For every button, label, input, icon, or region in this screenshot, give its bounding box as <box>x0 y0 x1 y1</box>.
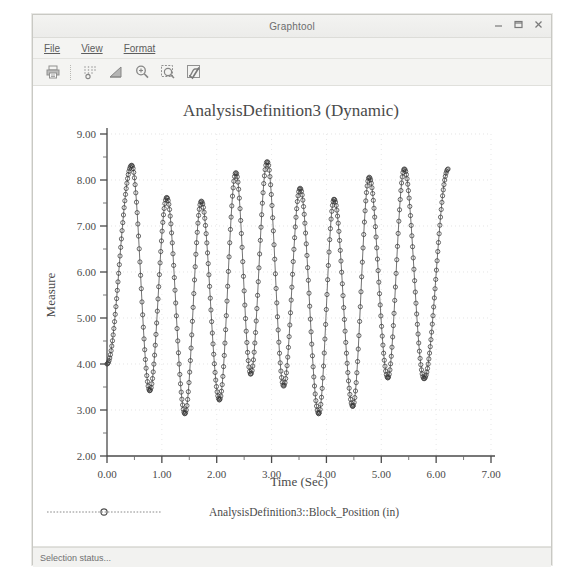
x-tick-label: 5.00 <box>372 468 392 480</box>
zoom-in-icon[interactable] <box>130 61 153 83</box>
menu-item-view[interactable]: View <box>79 42 105 55</box>
chart-plot: AnalysisDefinition3 (Dynamic) 2.003.004.… <box>33 86 549 546</box>
chart-style-icon[interactable] <box>104 61 127 83</box>
menu-format-label: Format <box>124 43 156 54</box>
grid-points-icon[interactable] <box>78 61 101 83</box>
toolbar-separator <box>70 65 72 80</box>
window-controls <box>492 18 545 31</box>
x-tick-label: 0.00 <box>97 468 117 480</box>
y-tick-label: 7.00 <box>77 220 97 232</box>
y-tick-label: 8.00 <box>77 174 97 186</box>
y-tick-label: 6.00 <box>77 266 97 278</box>
y-tick-label: 9.00 <box>77 128 97 140</box>
close-button[interactable] <box>532 18 545 31</box>
maximize-button[interactable] <box>512 18 525 31</box>
graphtool-window: Graphtool File View Format <box>32 14 552 565</box>
title-bar: Graphtool <box>33 15 551 38</box>
menu-item-file[interactable]: File <box>42 42 62 55</box>
menu-file-label: File <box>44 43 60 54</box>
status-bar: Selection status... <box>33 547 551 567</box>
chart-title: AnalysisDefinition3 (Dynamic) <box>183 101 399 120</box>
y-axis-label: Measure <box>43 272 58 317</box>
curve-fit-icon[interactable] <box>182 61 205 83</box>
menu-item-format[interactable]: Format <box>122 42 158 55</box>
print-icon[interactable] <box>41 61 64 83</box>
y-tick-label: 4.00 <box>77 358 97 370</box>
window-title: Graphtool <box>33 21 551 32</box>
x-tick-label: 7.00 <box>481 468 501 480</box>
minimize-button[interactable] <box>492 18 505 31</box>
legend-label: AnalysisDefinition3::Block_Position (in) <box>209 506 399 519</box>
x-tick-label: 2.00 <box>207 468 227 480</box>
menu-view-label: View <box>81 43 103 54</box>
x-tick-label: 1.00 <box>152 468 172 480</box>
y-tick-label: 5.00 <box>77 312 97 324</box>
y-tick-label: 3.00 <box>77 404 97 416</box>
status-text: Selection status... <box>40 553 111 563</box>
zoom-area-icon[interactable] <box>156 61 179 83</box>
menu-bar: File View Format <box>33 38 551 59</box>
chart-canvas[interactable]: AnalysisDefinition3 (Dynamic) 2.003.004.… <box>33 86 551 547</box>
toolbar <box>33 59 551 86</box>
y-tick-label: 2.00 <box>77 450 97 462</box>
x-tick-label: 6.00 <box>427 468 447 480</box>
x-axis-label: Time (Sec) <box>270 474 328 489</box>
